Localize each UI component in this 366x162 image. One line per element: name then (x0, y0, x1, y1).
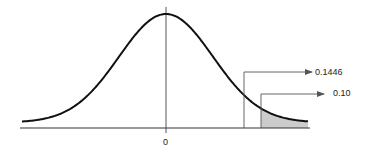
normal-curve (22, 14, 308, 122)
annotation-upper: 0.1446 (315, 67, 343, 77)
normal-distribution-chart (0, 0, 366, 162)
x-tick-zero: 0 (163, 137, 168, 147)
annotation-lower: 0.10 (333, 88, 351, 98)
